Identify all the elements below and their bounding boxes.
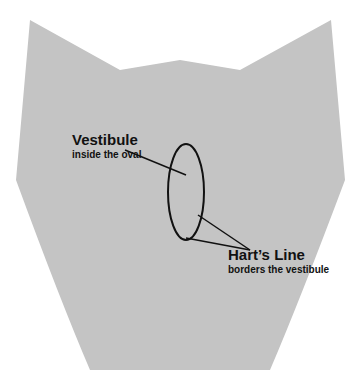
harts-line-subtitle: borders the vestibule (228, 265, 329, 275)
harts-line-title: Hart’s Line (228, 247, 329, 262)
harts-line-label: Hart’s Line borders the vestibule (228, 247, 329, 275)
vestibule-title: Vestibule (72, 132, 141, 147)
vestibule-subtitle: inside the oval (72, 150, 141, 160)
diagram-canvas: Vestibule inside the oval Hart’s Line bo… (0, 0, 361, 381)
anatomical-figure-placeholder (0, 0, 361, 381)
vestibule-label: Vestibule inside the oval (72, 132, 141, 160)
